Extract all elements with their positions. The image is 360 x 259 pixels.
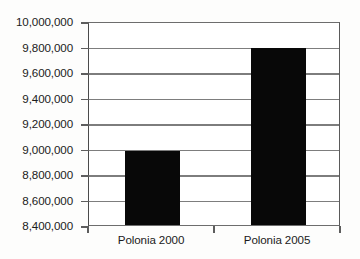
y-axis-tick	[81, 99, 89, 100]
x-axis-tick	[87, 226, 88, 233]
y-axis-tick-label: 8,400,000	[0, 220, 73, 232]
bar	[251, 48, 306, 225]
y-axis-tick-label: 9,000,000	[0, 144, 73, 156]
y-axis-tick	[81, 150, 89, 151]
x-axis-tick	[339, 226, 340, 233]
y-axis-tick-label: 9,800,000	[0, 42, 73, 54]
plot-area	[88, 22, 340, 226]
y-axis-tick-label: 9,400,000	[0, 93, 73, 105]
y-axis-tick	[81, 22, 89, 23]
y-axis-tick-label: 8,800,000	[0, 169, 73, 181]
y-axis-tick-label: 10,000,000	[0, 16, 73, 28]
x-axis-tick	[213, 226, 214, 233]
x-axis-category-label: Polonia 2005	[244, 233, 311, 246]
x-axis-category-label: Polonia 2000	[118, 233, 185, 246]
y-axis-tick	[81, 48, 89, 49]
y-axis-tick-label: 8,600,000	[0, 195, 73, 207]
y-axis-tick-label: 9,200,000	[0, 118, 73, 130]
y-axis-tick	[81, 201, 89, 202]
y-axis-tick-label: 9,600,000	[0, 67, 73, 79]
bar-chart: 10,000,0009,800,0009,600,0009,400,0009,2…	[0, 0, 360, 259]
bar	[125, 151, 180, 225]
y-axis-tick	[81, 73, 89, 74]
y-axis-tick	[81, 124, 89, 125]
y-axis-tick	[81, 175, 89, 176]
